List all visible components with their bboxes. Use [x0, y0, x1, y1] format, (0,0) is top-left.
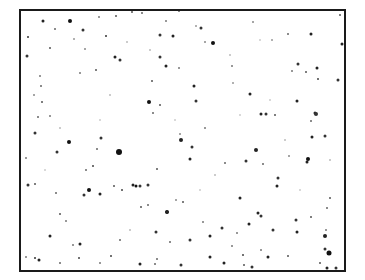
star-dot — [214, 174, 216, 176]
star-dot — [79, 72, 81, 74]
star-dot — [165, 65, 168, 68]
star-dot — [306, 157, 310, 161]
star-dot — [231, 245, 233, 247]
star-dot — [251, 266, 254, 269]
star-dot — [65, 220, 67, 222]
star-dot — [139, 263, 142, 266]
star-dot — [149, 49, 151, 51]
star-dot — [154, 263, 156, 265]
star-dot — [296, 231, 299, 234]
star-dot — [265, 113, 268, 116]
star-dot — [236, 232, 238, 234]
star-dot — [271, 39, 273, 41]
star-dot — [39, 75, 41, 77]
star-dot — [297, 63, 300, 66]
star-dot — [335, 267, 338, 270]
star-dot — [287, 33, 289, 35]
star-dot — [189, 239, 192, 242]
star-dot — [311, 136, 314, 139]
star-dot — [323, 234, 327, 238]
star-dot — [178, 10, 180, 12]
star-dot — [49, 115, 51, 117]
star-dot — [49, 235, 52, 238]
star-dot — [326, 267, 329, 270]
star-dot — [100, 137, 103, 140]
star-dot — [339, 14, 341, 16]
star-dot — [141, 12, 143, 14]
star-dot — [221, 227, 224, 230]
star-dot — [209, 235, 212, 238]
star-dot — [195, 100, 198, 103]
star-dot — [259, 39, 261, 41]
star-dot — [82, 29, 85, 32]
star-dot — [113, 185, 115, 187]
star-dot — [68, 19, 72, 23]
star-dot — [260, 215, 263, 218]
star-dot — [56, 151, 59, 154]
star-dot — [126, 41, 128, 43]
star-dot — [38, 259, 41, 262]
star-dot — [319, 262, 321, 264]
star-dot — [329, 159, 331, 161]
star-dot — [179, 138, 183, 142]
star-dot — [34, 132, 37, 135]
star-dot — [329, 197, 331, 199]
star-dot — [245, 160, 248, 163]
star-dot — [317, 78, 319, 80]
star-dot — [79, 243, 82, 246]
star-dot — [223, 262, 226, 265]
star-dot — [55, 192, 57, 194]
star-dot — [99, 119, 101, 121]
star-dot — [172, 35, 175, 38]
star-dot — [166, 211, 169, 214]
star-dot — [274, 114, 276, 116]
star-dot — [314, 112, 318, 116]
star-dot — [209, 256, 212, 259]
star-dot — [337, 79, 340, 82]
star-dot — [159, 104, 161, 106]
star-dot — [252, 21, 254, 23]
star-dot — [147, 100, 151, 104]
star-dot — [135, 185, 138, 188]
star-dot — [326, 207, 328, 209]
star-dot — [34, 257, 36, 259]
star-dot — [327, 251, 332, 256]
star-dot — [25, 157, 27, 159]
star-dot — [295, 219, 298, 222]
star-dot — [147, 184, 150, 187]
star-dot — [260, 249, 262, 251]
star-dot — [284, 139, 286, 141]
star-dot — [72, 244, 74, 246]
star-dot — [324, 135, 327, 138]
star-field-image — [19, 9, 346, 272]
star-dot — [248, 223, 251, 226]
star-dot — [119, 59, 122, 62]
star-dot — [40, 85, 42, 87]
star-dot — [26, 55, 29, 58]
star-dot — [291, 70, 293, 72]
star-dot — [288, 155, 290, 157]
star-dot — [179, 133, 181, 135]
star-dot — [27, 36, 29, 38]
star-dot — [199, 189, 201, 191]
star-dot — [41, 101, 43, 103]
star-dot — [159, 56, 162, 59]
star-dot — [34, 183, 36, 185]
star-dot — [119, 239, 121, 241]
star-dot — [59, 213, 61, 215]
star-dot — [54, 28, 56, 30]
star-dot — [156, 258, 158, 260]
star-dot — [287, 255, 289, 257]
star-dot — [195, 25, 197, 27]
star-dot — [151, 80, 153, 82]
star-dot — [131, 11, 133, 13]
star-dot — [165, 20, 167, 22]
star-dot — [110, 255, 112, 257]
star-dot — [99, 193, 102, 196]
star-dot — [129, 229, 131, 231]
star-dot — [109, 94, 111, 96]
star-dot — [269, 99, 271, 101]
star-dot — [211, 41, 215, 45]
star-dot — [95, 69, 97, 71]
star-dot — [27, 184, 30, 187]
